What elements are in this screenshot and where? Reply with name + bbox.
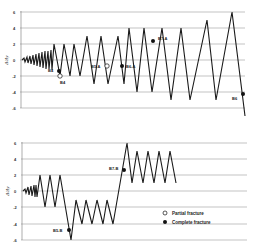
bottom-y-ticks: 6 4 2 0 -2 -4 -6 bbox=[13, 141, 17, 243]
annotation-label: B7-A bbox=[158, 36, 167, 41]
tick: 6 bbox=[14, 141, 17, 146]
annotation-label: B5-A bbox=[91, 64, 100, 69]
bottom-gridlines bbox=[21, 143, 247, 240]
tick: 4 bbox=[14, 157, 17, 162]
legend-label-partial: Partial fracture bbox=[172, 211, 204, 216]
partial-fracture-marker bbox=[58, 74, 62, 78]
tick: 2 bbox=[13, 42, 16, 47]
bottom-chart: 6 4 2 0 -2 -4 -6 Δ/Δy B5-B B7-B Partial … bbox=[5, 141, 247, 243]
annotation-label: B6-A bbox=[126, 64, 135, 69]
tick: -6 bbox=[12, 106, 16, 111]
complete-fracture-marker bbox=[57, 69, 61, 73]
tick: 0 bbox=[13, 58, 16, 63]
tick: -4 bbox=[13, 222, 17, 227]
partial-fracture-legend-icon bbox=[163, 211, 167, 215]
bottom-y-axis-label: Δ/Δy bbox=[5, 185, 10, 196]
complete-fracture-marker bbox=[120, 64, 124, 68]
annotation-label: B4 bbox=[48, 68, 54, 73]
top-y-axis-label: Δ/Δy bbox=[4, 54, 9, 65]
tick: 0 bbox=[14, 189, 17, 194]
top-y-ticks: 6 4 2 0 -2 -4 -6 bbox=[12, 10, 16, 111]
legend: Partial fracture Complete fracture bbox=[163, 211, 211, 225]
annotation-label: B4 bbox=[60, 80, 66, 85]
annotation-label: B7-B bbox=[109, 166, 118, 171]
chart-canvas: 6 4 2 0 -2 -4 -6 Δ/Δy B4 B4 B5-A B6-A B7… bbox=[0, 0, 255, 251]
annotation-label: B5-B bbox=[53, 228, 62, 233]
tick: -4 bbox=[12, 90, 16, 95]
legend-label-complete: Complete fracture bbox=[172, 220, 211, 225]
annotation-label: B6 bbox=[232, 96, 238, 101]
tick: 6 bbox=[13, 10, 16, 15]
top-chart: 6 4 2 0 -2 -4 -6 Δ/Δy B4 B4 B5-A B6-A B7… bbox=[4, 10, 245, 117]
tick: 4 bbox=[13, 26, 16, 31]
tick: -2 bbox=[12, 74, 16, 79]
tick: 2 bbox=[14, 173, 17, 178]
partial-fracture-marker bbox=[105, 64, 109, 68]
complete-fracture-marker bbox=[151, 39, 155, 43]
complete-fracture-legend-icon bbox=[163, 220, 167, 224]
tick: -2 bbox=[13, 205, 17, 210]
tick: -6 bbox=[13, 238, 17, 243]
complete-fracture-marker bbox=[67, 228, 71, 232]
bottom-series-line bbox=[23, 143, 176, 240]
complete-fracture-marker bbox=[241, 92, 245, 96]
complete-fracture-marker bbox=[122, 168, 126, 172]
